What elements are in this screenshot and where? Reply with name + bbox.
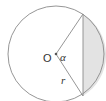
- shaded-segment: [83, 14, 106, 96]
- radius-line-upper: [56, 14, 83, 54]
- center-point: [55, 53, 58, 56]
- angle-label: α: [60, 51, 66, 63]
- center-label: O: [43, 52, 52, 64]
- circle-diagram: O α r: [0, 0, 106, 101]
- radius-label: r: [61, 74, 66, 86]
